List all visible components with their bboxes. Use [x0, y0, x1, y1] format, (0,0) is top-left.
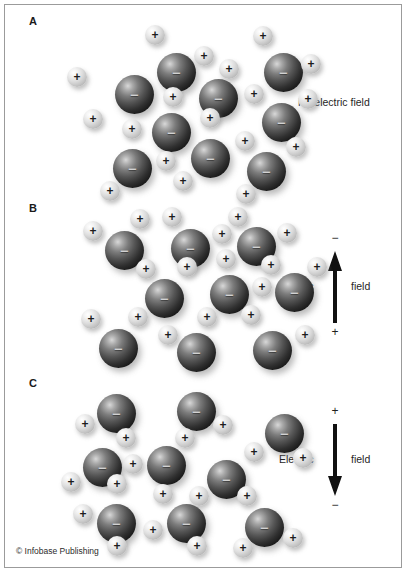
- positive-ion-sphere: +: [261, 255, 281, 275]
- positive-charge-sign: +: [225, 63, 232, 75]
- positive-ion-sphere: +: [187, 536, 207, 556]
- positive-ion-sphere: +: [116, 428, 136, 448]
- positive-ion-sphere: +: [83, 221, 103, 241]
- positive-ion-sphere: +: [189, 486, 209, 506]
- positive-charge-sign: +: [79, 508, 86, 520]
- positive-ion-sphere: +: [177, 257, 197, 277]
- negative-charge-sign: −: [277, 115, 286, 130]
- panel-b: B ++−++−++−++−++−++−++−++−++− − + Electr…: [5, 191, 403, 366]
- positive-ion-sphere: +: [130, 209, 150, 229]
- positive-charge-sign: +: [113, 478, 120, 490]
- positive-charge-sign: +: [128, 123, 135, 135]
- positive-charge-sign: +: [168, 211, 175, 223]
- panel-a: A ++−++−++−++−++−++−++−++−++− No electri…: [5, 5, 403, 191]
- positive-charge-sign: +: [234, 211, 241, 223]
- positive-charge-sign: +: [183, 261, 190, 273]
- molecule-cluster-b: ++−++−++−++−++−++−++−++−++−: [45, 207, 305, 387]
- positive-ion-sphere: +: [61, 472, 81, 492]
- molecule-cluster-c: ++−++−++−++−++−++−++−++−++−: [45, 386, 305, 566]
- positive-charge-sign: +: [122, 432, 129, 444]
- positive-charge-sign: +: [206, 112, 213, 124]
- positive-ion-sphere: +: [252, 277, 272, 297]
- negative-ion-sphere: −: [265, 414, 304, 453]
- positive-ion-sphere: +: [212, 224, 232, 244]
- negative-charge-sign: −: [130, 87, 139, 102]
- positive-charge-sign: +: [200, 50, 207, 62]
- negative-charge-sign: −: [214, 91, 223, 106]
- positive-charge-sign: +: [162, 155, 169, 167]
- negative-charge-sign: −: [162, 458, 171, 473]
- negative-charge-sign: −: [182, 516, 191, 531]
- positive-charge-sign: +: [195, 490, 202, 502]
- negative-charge-sign: −: [192, 345, 201, 360]
- positive-ion-sphere: +: [107, 474, 127, 494]
- positive-ion-sphere: +: [283, 528, 303, 548]
- field-arrow-up-icon: [327, 249, 343, 325]
- positive-ion-sphere: +: [173, 171, 193, 191]
- positive-charge-sign: +: [247, 309, 254, 321]
- negative-charge-sign: −: [290, 285, 299, 300]
- positive-charge-sign: +: [222, 253, 229, 265]
- negative-charge-sign: −: [120, 243, 129, 258]
- positive-ion-sphere: +: [81, 309, 101, 329]
- negative-ion-sphere: −: [177, 392, 216, 431]
- positive-ion-sphere: +: [128, 307, 148, 327]
- positive-ion-sphere: +: [219, 59, 239, 79]
- negative-ion-sphere: −: [147, 446, 186, 485]
- field-bottom-pole-b: +: [327, 325, 343, 339]
- negative-charge-sign: −: [167, 125, 176, 140]
- positive-charge-sign: +: [142, 263, 149, 275]
- panel-b-label: B: [29, 202, 37, 214]
- positive-ion-sphere: +: [228, 207, 248, 227]
- figure-root: A ++−++−++−++−++−++−++−++−++− No electri…: [0, 0, 408, 584]
- positive-charge-sign: +: [149, 524, 156, 536]
- positive-charge-sign: +: [239, 542, 246, 554]
- positive-charge-sign: +: [113, 540, 120, 552]
- positive-ion-sphere: +: [83, 109, 103, 129]
- positive-ion-sphere: +: [216, 249, 236, 269]
- positive-charge-sign: +: [67, 476, 74, 488]
- negative-charge-sign: −: [112, 406, 121, 421]
- positive-charge-sign: +: [250, 446, 257, 458]
- field-arrow-down-icon: [327, 422, 343, 498]
- positive-ion-sphere: +: [194, 46, 214, 66]
- positive-charge-sign: +: [89, 113, 96, 125]
- positive-charge-sign: +: [87, 313, 94, 325]
- negative-charge-sign: −: [279, 65, 288, 80]
- positive-charge-sign: +: [219, 419, 226, 431]
- positive-charge-sign: +: [283, 227, 290, 239]
- positive-ion-sphere: +: [163, 87, 183, 107]
- negative-charge-sign: −: [252, 239, 261, 254]
- negative-charge-sign: −: [112, 516, 121, 531]
- negative-charge-sign: −: [114, 341, 123, 356]
- negative-ion-sphere: −: [264, 53, 303, 92]
- negative-charge-sign: −: [268, 343, 277, 358]
- positive-ion-sphere: +: [200, 108, 220, 128]
- field-top-pole-b: −: [327, 231, 343, 245]
- positive-charge-sign: +: [81, 418, 88, 430]
- negative-charge-sign: −: [128, 161, 137, 176]
- negative-charge-sign: −: [225, 287, 234, 302]
- positive-ion-sphere: +: [233, 538, 253, 558]
- positive-ion-sphere: +: [277, 223, 297, 243]
- positive-charge-sign: +: [241, 135, 248, 147]
- positive-charge-sign: +: [193, 540, 200, 552]
- positive-charge-sign: +: [259, 30, 266, 42]
- positive-ion-sphere: +: [107, 536, 127, 556]
- negative-charge-sign: −: [186, 241, 195, 256]
- positive-charge-sign: +: [179, 175, 186, 187]
- negative-ion-sphere: −: [247, 152, 286, 191]
- positive-ion-sphere: +: [123, 454, 143, 474]
- panel-a-label: A: [29, 15, 37, 27]
- positive-charge-sign: +: [242, 188, 249, 200]
- positive-ion-sphere: +: [122, 119, 142, 139]
- positive-ion-sphere: +: [237, 486, 257, 506]
- positive-ion-sphere: +: [143, 520, 163, 540]
- positive-ion-sphere: +: [100, 181, 120, 201]
- positive-charge-sign: +: [313, 261, 320, 273]
- negative-charge-sign: −: [280, 426, 289, 441]
- positive-charge-sign: +: [129, 458, 136, 470]
- positive-charge-sign: +: [136, 213, 143, 225]
- field-bottom-pole-c: −: [327, 498, 343, 512]
- negative-ion-sphere: −: [177, 333, 216, 372]
